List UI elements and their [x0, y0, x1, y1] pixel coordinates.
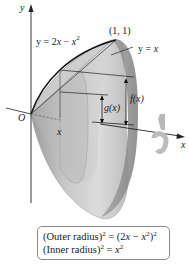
inner-radius-function-label: g(x) — [104, 103, 120, 113]
inner-radius-formula: (Inner radius)2 = x2 — [43, 243, 169, 256]
curve-lower-label: y = x — [138, 44, 158, 54]
radius-formula-box: (Outer radius)2 = (2x − x2)2 (Inner radi… — [37, 226, 170, 260]
outer-radius-formula: (Outer radius)2 = (2x − x2)2 — [43, 230, 169, 243]
solid-of-revolution — [31, 39, 138, 219]
intersection-point-label: (1, 1) — [109, 26, 131, 36]
y-axis-label: y — [20, 3, 24, 13]
rotation-arrow-icon — [154, 114, 166, 152]
x-axis-label: x — [181, 140, 185, 150]
curve-upper-label: y = 2x − x2 — [36, 37, 80, 47]
origin-label: O — [18, 113, 25, 123]
x-position-label: x — [57, 127, 61, 137]
washer-method-figure: y x O y = 2x − x2 (1, 1) y = x f(x) g(x)… — [0, 0, 189, 265]
outer-radius-function-label: f(x) — [130, 94, 144, 104]
y-axis-arrow-icon — [29, 4, 34, 12]
